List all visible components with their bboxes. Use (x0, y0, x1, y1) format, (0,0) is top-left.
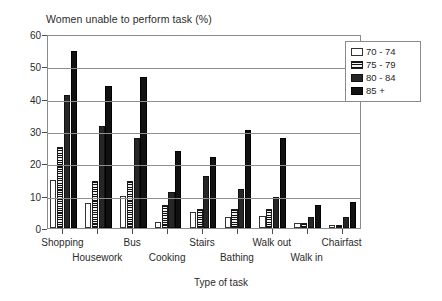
legend-item: 75 - 79 (351, 58, 416, 71)
x-axis-tick-label: Chairfast (322, 237, 362, 248)
legend: 70 - 74 75 - 79 80 - 84 85 + (345, 41, 421, 102)
bar (273, 197, 279, 228)
bar (315, 205, 321, 228)
x-axis-tick-mark (132, 229, 133, 234)
bar (105, 86, 111, 228)
x-axis-tick-mark (167, 229, 168, 234)
x-axis-tick-mark (307, 229, 308, 234)
gridline (48, 198, 360, 199)
bar (190, 212, 196, 228)
x-axis-tick-label: Cooking (149, 252, 186, 263)
bar (266, 209, 272, 228)
gridline (48, 101, 360, 102)
bar (210, 157, 216, 228)
gridline (48, 165, 360, 166)
x-axis-title: Type of task (0, 277, 442, 288)
bar (294, 223, 300, 228)
x-axis-tick-label: Housework (72, 252, 122, 263)
bar (308, 217, 314, 228)
bar (162, 205, 168, 228)
y-axis-tick-mark (42, 229, 47, 230)
legend-label: 75 - 79 (366, 59, 396, 70)
bar (120, 196, 126, 228)
legend-label: 85 + (366, 85, 385, 96)
legend-item: 70 - 74 (351, 45, 416, 58)
legend-label: 70 - 74 (366, 46, 396, 57)
bar (238, 189, 244, 228)
x-axis-tick-label: Walk in (290, 252, 322, 263)
y-axis-tick-label: 40 (15, 94, 41, 105)
y-axis-tick-mark (42, 197, 47, 198)
bar (197, 209, 203, 228)
bar (203, 176, 209, 228)
bar (336, 225, 342, 228)
y-axis-tick-label: 50 (15, 62, 41, 73)
bar (50, 180, 56, 228)
y-axis-tick-label: 60 (15, 30, 41, 41)
bars-layer (48, 36, 360, 228)
x-axis-tick-label: Bathing (220, 252, 254, 263)
bar-chart: Women unable to perform task (%) 0102030… (0, 0, 442, 301)
legend-item: 85 + (351, 84, 416, 97)
x-axis-tick-label: Shopping (41, 237, 83, 248)
legend-swatch-85-plus-icon (351, 87, 363, 95)
y-axis-tick-label: 10 (15, 191, 41, 202)
legend-swatch-80-84-icon (351, 74, 363, 82)
bar (71, 51, 77, 228)
bar (127, 181, 133, 228)
x-axis-tick-label: Bus (124, 237, 141, 248)
x-axis-tick-mark (62, 229, 63, 234)
chart-title: Women unable to perform task (%) (46, 13, 212, 25)
y-axis-tick-mark (42, 67, 47, 68)
x-axis-tick-mark (97, 229, 98, 234)
bar (225, 217, 231, 228)
y-axis-tick-label: 20 (15, 159, 41, 170)
bar (99, 126, 105, 228)
bar (301, 223, 307, 228)
bar (231, 209, 237, 228)
bar (140, 77, 146, 228)
plot-area (47, 35, 361, 229)
y-axis-tick-mark (42, 35, 47, 36)
x-axis-tick-mark (272, 229, 273, 234)
bar (92, 181, 98, 228)
y-axis-tick-mark (42, 164, 47, 165)
y-axis-tick-label: 30 (15, 127, 41, 138)
bar (280, 138, 286, 228)
x-axis-tick-label: Stairs (189, 237, 215, 248)
x-axis-tick-mark (237, 229, 238, 234)
x-axis-tick-label: Walk out (253, 237, 292, 248)
y-axis-tick-mark (42, 100, 47, 101)
x-axis-tick-mark (342, 229, 343, 234)
x-axis-tick-mark (202, 229, 203, 234)
bar (350, 202, 356, 228)
bar (134, 138, 140, 228)
y-axis-tick-label: 0 (15, 224, 41, 235)
bar (64, 95, 70, 228)
bar (155, 222, 161, 228)
legend-item: 80 - 84 (351, 71, 416, 84)
legend-label: 80 - 84 (366, 72, 396, 83)
bar (259, 216, 265, 228)
gridline (48, 68, 360, 69)
legend-swatch-75-79-icon (351, 61, 363, 69)
bar (85, 203, 91, 228)
bar (245, 130, 251, 228)
bar (329, 225, 335, 228)
legend-swatch-70-74-icon (351, 48, 363, 56)
y-axis-tick-mark (42, 132, 47, 133)
bar (343, 217, 349, 228)
bar (175, 151, 181, 228)
bar (57, 147, 63, 228)
gridline (48, 133, 360, 134)
